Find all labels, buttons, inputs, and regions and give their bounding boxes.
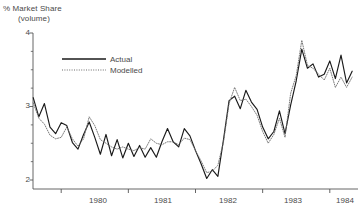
- series-line-actual: [33, 49, 352, 178]
- market-share-chart: % Market Share (volume) 4 3 2 1980 1981 …: [0, 0, 363, 219]
- y-axis-tick-label: 4: [20, 28, 30, 37]
- plot-area: [0, 0, 363, 219]
- x-axis-tick-label: 1980: [81, 196, 115, 205]
- x-axis-tick-label: 1984: [328, 196, 362, 205]
- legend-label-modelled: Modelled: [110, 66, 142, 75]
- x-axis-tick-label: 1983: [276, 196, 310, 205]
- y-axis-tick-label: 3: [20, 101, 30, 110]
- legend-label-actual: Actual: [110, 55, 132, 64]
- x-axis-tick-label: 1982: [211, 196, 245, 205]
- series-line-modelled: [33, 40, 352, 172]
- x-axis-tick-label: 1981: [146, 196, 180, 205]
- y-axis-tick-label: 2: [20, 175, 30, 184]
